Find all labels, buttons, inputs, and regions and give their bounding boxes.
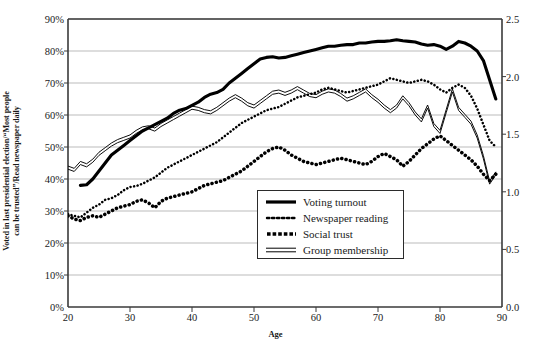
legend-label-voting-turnout: Voting turnout [303, 195, 367, 209]
legend-item-voting-turnout: Voting turnout [264, 194, 398, 210]
legend-item-social-trust: Social trust [264, 226, 398, 242]
chart-container: Voted in last presidential election/“Mos… [0, 0, 551, 347]
legend-label-social-trust: Social trust [303, 227, 353, 241]
legend-key-double-line-icon [264, 243, 298, 257]
series-line-group-membership-0 [68, 87, 496, 181]
legend-label-group-membership: Group membership [303, 243, 388, 257]
series-line-group-membership-1 [68, 90, 496, 184]
x-axis-label: Age [0, 329, 551, 339]
legend-key-fine-dotted-icon [264, 211, 298, 225]
chart-legend: Voting turnout Newspaper reading Social … [257, 190, 404, 259]
legend-item-group-membership: Group membership [264, 242, 398, 258]
legend-label-newspaper-reading: Newspaper reading [303, 211, 388, 225]
series-line-voting-turnout [80, 40, 495, 186]
legend-key-thick-solid-icon [264, 195, 298, 209]
legend-key-thick-dotted-icon [264, 227, 298, 241]
plot-area [0, 0, 551, 347]
axis-frame [68, 19, 502, 307]
legend-item-newspaper-reading: Newspaper reading [264, 210, 398, 226]
